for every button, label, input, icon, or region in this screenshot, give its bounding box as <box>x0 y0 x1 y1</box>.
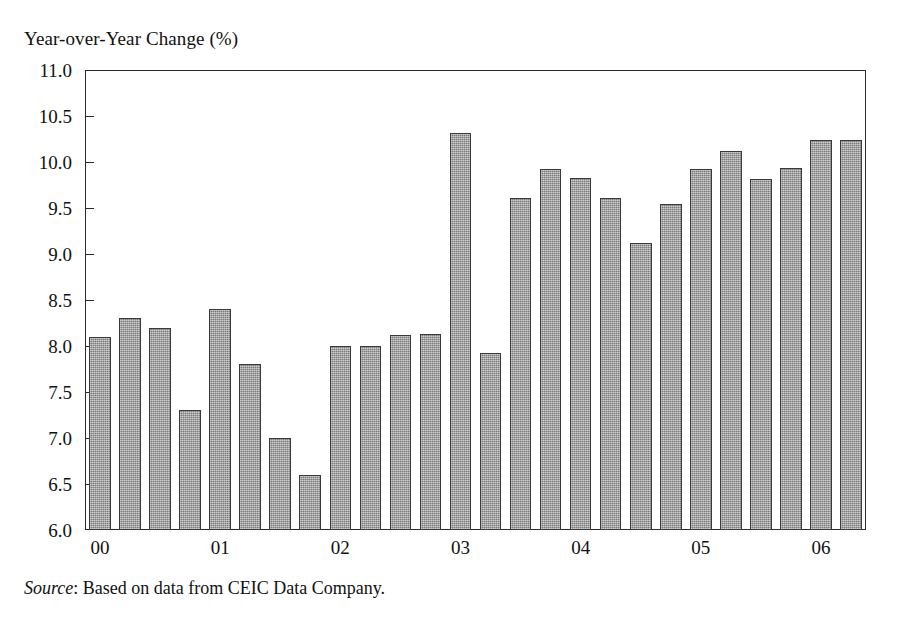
bar <box>420 334 442 530</box>
x-axis-tick-label: 05 <box>691 538 710 557</box>
bar <box>660 204 682 530</box>
bar <box>780 168 802 530</box>
bar <box>360 346 382 530</box>
bar <box>89 337 111 530</box>
y-axis-tick-label: 10.5 <box>14 107 72 126</box>
x-axis-tick-label: 03 <box>451 538 470 557</box>
bar <box>690 169 712 530</box>
source-note: Source: Based on data from CEIC Data Com… <box>24 578 385 599</box>
y-axis-tick-label: 8.5 <box>14 291 72 310</box>
bar <box>119 318 141 530</box>
bar <box>840 140 862 530</box>
y-axis-tick-label: 10.0 <box>14 153 72 172</box>
x-axis-tick-label: 00 <box>91 538 110 557</box>
bar <box>209 309 231 530</box>
bar <box>149 328 171 530</box>
bar <box>269 438 291 530</box>
bar <box>450 133 472 530</box>
x-axis-tick-label: 01 <box>211 538 230 557</box>
bar <box>510 198 532 530</box>
bar <box>720 151 742 530</box>
bar <box>239 364 261 530</box>
y-axis-tick-label: 7.5 <box>14 383 72 402</box>
bar <box>750 179 772 530</box>
y-axis-tick-label: 7.0 <box>14 429 72 448</box>
bar-series <box>85 70 866 530</box>
bar <box>390 335 412 530</box>
y-axis-tick-label: 9.5 <box>14 199 72 218</box>
y-axis-tick-label: 6.5 <box>14 475 72 494</box>
x-axis-tick-label: 02 <box>331 538 350 557</box>
bar <box>480 353 502 530</box>
y-axis: 11.010.510.09.59.08.58.07.57.06.56.0 <box>0 0 72 630</box>
bar <box>330 346 352 530</box>
bar <box>600 198 622 530</box>
bar <box>179 410 201 530</box>
bar <box>630 243 652 530</box>
bar <box>570 178 592 530</box>
bar <box>540 169 562 530</box>
x-axis-tick-label: 04 <box>571 538 590 557</box>
bar <box>810 140 832 530</box>
y-axis-tick-label: 8.0 <box>14 337 72 356</box>
x-axis-tick-label: 06 <box>811 538 830 557</box>
y-axis-tick-label: 11.0 <box>14 61 72 80</box>
chart-figure: Year-over-Year Change (%) 11.010.510.09.… <box>0 0 897 630</box>
source-label: Source <box>24 578 73 598</box>
y-axis-tick-label: 6.0 <box>14 521 72 540</box>
source-text: : Based on data from CEIC Data Company. <box>73 578 385 598</box>
y-axis-tick-label: 9.0 <box>14 245 72 264</box>
bar <box>299 475 321 530</box>
